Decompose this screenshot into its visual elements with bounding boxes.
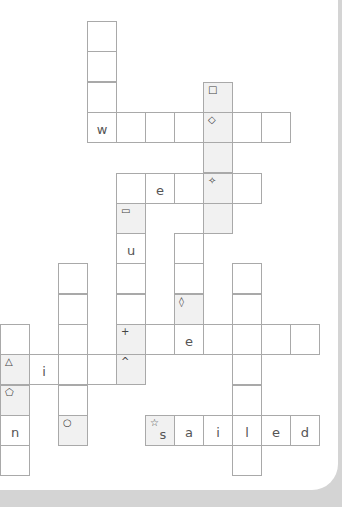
clue-symbol-icon: □ bbox=[208, 84, 217, 96]
clue-symbol-icon: ◇ bbox=[208, 114, 216, 126]
crossword-cell[interactable] bbox=[232, 354, 262, 385]
crossword-cell[interactable]: ▭ bbox=[116, 203, 146, 234]
cell-letter: l bbox=[245, 425, 249, 440]
crossword-cell[interactable] bbox=[290, 324, 320, 355]
crossword-cell[interactable]: △ bbox=[0, 354, 30, 385]
crossword-cell[interactable] bbox=[87, 354, 117, 385]
cell-letter: a bbox=[185, 425, 193, 440]
crossword-cell[interactable] bbox=[232, 112, 262, 143]
crossword-cell[interactable] bbox=[232, 385, 262, 416]
crossword-cell[interactable]: ✧ bbox=[203, 173, 233, 204]
crossword-cell[interactable]: + bbox=[116, 324, 146, 355]
crossword-cell[interactable] bbox=[0, 324, 30, 355]
crossword-cell[interactable] bbox=[203, 203, 233, 234]
crossword-cell[interactable]: ◊ bbox=[174, 294, 204, 325]
crossword-cell[interactable]: a bbox=[174, 415, 204, 446]
crossword-cell[interactable] bbox=[232, 263, 262, 294]
crossword-cell[interactable]: d bbox=[290, 415, 320, 446]
crossword-cell[interactable]: ☆s bbox=[145, 415, 175, 446]
cell-letter: u bbox=[127, 243, 135, 258]
crossword-cell[interactable] bbox=[0, 445, 30, 476]
crossword-cell[interactable] bbox=[116, 112, 146, 143]
cell-letter: e bbox=[272, 425, 280, 440]
crossword-cell[interactable] bbox=[145, 112, 175, 143]
crossword-cell[interactable] bbox=[87, 51, 117, 82]
crossword-cell[interactable]: e bbox=[145, 173, 175, 204]
crossword-cell[interactable] bbox=[145, 324, 175, 355]
crossword-cell[interactable] bbox=[87, 21, 117, 52]
clue-symbol-icon: ◊ bbox=[179, 296, 184, 308]
cell-letter: d bbox=[301, 425, 309, 440]
crossword-cell[interactable]: u bbox=[116, 233, 146, 264]
clue-symbol-icon: + bbox=[121, 326, 129, 338]
crossword-cell[interactable] bbox=[174, 173, 204, 204]
crossword-cell[interactable] bbox=[116, 294, 146, 325]
clue-symbol-icon: ✧ bbox=[208, 175, 216, 187]
crossword-cell[interactable] bbox=[261, 112, 291, 143]
cell-letter: i bbox=[42, 364, 46, 379]
crossword-cell[interactable]: e bbox=[174, 324, 204, 355]
crossword-cell[interactable] bbox=[232, 294, 262, 325]
crossword-cell[interactable] bbox=[116, 263, 146, 294]
crossword-cell[interactable] bbox=[116, 173, 146, 204]
cell-letter: i bbox=[216, 425, 220, 440]
crossword-cell[interactable] bbox=[232, 324, 262, 355]
clue-symbol-icon: △ bbox=[5, 356, 13, 368]
clue-symbol-icon: ▭ bbox=[121, 205, 130, 217]
clue-symbol-icon: ⬠ bbox=[5, 387, 14, 399]
crossword-cell[interactable]: i bbox=[29, 354, 59, 385]
crossword-cell[interactable]: □ bbox=[203, 82, 233, 113]
cell-letter: w bbox=[97, 122, 108, 137]
crossword-cell[interactable]: i bbox=[203, 415, 233, 446]
cell-letter: s bbox=[160, 427, 167, 442]
clue-symbol-icon: ○ bbox=[63, 417, 72, 429]
crossword-cell[interactable]: e bbox=[261, 415, 291, 446]
crossword-grid: w□◇e✧▭u+^◊e○i△⬠n☆sailed bbox=[0, 0, 342, 507]
clue-symbol-icon: ^ bbox=[121, 356, 129, 368]
crossword-cell[interactable] bbox=[232, 445, 262, 476]
crossword-cell[interactable] bbox=[58, 354, 88, 385]
crossword-cell[interactable] bbox=[174, 233, 204, 264]
clue-symbol-icon: ☆ bbox=[150, 417, 159, 429]
crossword-cell[interactable] bbox=[203, 324, 233, 355]
crossword-cell[interactable]: w bbox=[87, 112, 117, 143]
crossword-cell[interactable]: ⬠ bbox=[0, 385, 30, 416]
crossword-cell[interactable] bbox=[58, 294, 88, 325]
crossword-cell[interactable] bbox=[174, 112, 204, 143]
crossword-cell[interactable] bbox=[58, 263, 88, 294]
crossword-cell[interactable] bbox=[58, 324, 88, 355]
crossword-cell[interactable]: n bbox=[0, 415, 30, 446]
crossword-cell[interactable] bbox=[261, 324, 291, 355]
crossword-cell[interactable]: ^ bbox=[116, 354, 146, 385]
cell-letter: e bbox=[185, 334, 193, 349]
crossword-cell[interactable] bbox=[87, 82, 117, 113]
crossword-cell[interactable]: ○ bbox=[58, 415, 88, 446]
cell-letter: n bbox=[11, 425, 19, 440]
crossword-cell[interactable] bbox=[232, 173, 262, 204]
crossword-cell[interactable] bbox=[58, 385, 88, 416]
crossword-cell[interactable] bbox=[203, 142, 233, 173]
crossword-cell[interactable]: ◇ bbox=[203, 112, 233, 143]
cell-letter: e bbox=[156, 183, 164, 198]
crossword-cell[interactable]: l bbox=[232, 415, 262, 446]
crossword-cell[interactable] bbox=[174, 263, 204, 294]
